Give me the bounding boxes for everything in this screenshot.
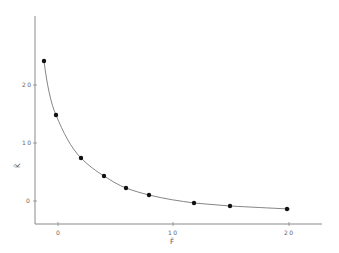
y-tick-label-10: 10 [22, 139, 33, 146]
data-point [54, 113, 58, 117]
x-tick-label-20: 20 [284, 229, 295, 236]
chart: 20 10 0 0 10 20 F̄ K̄ [0, 0, 339, 253]
x-axis-label: F̄ [170, 237, 174, 246]
data-point [228, 204, 232, 208]
data-point [124, 186, 128, 190]
data-point [79, 156, 83, 160]
data-point [42, 59, 46, 63]
x-tick-label-0: 0 [56, 229, 61, 236]
y-axis-label: K̄ [13, 163, 22, 168]
data-point [192, 201, 196, 205]
data-point [147, 193, 151, 197]
fitted-curve [44, 61, 290, 209]
data-points [42, 59, 289, 211]
y-tick-label-20: 20 [22, 81, 33, 88]
data-point [102, 174, 106, 178]
y-tick-label-0: 0 [26, 197, 31, 204]
x-tick-label-10: 10 [168, 229, 179, 236]
data-point [285, 207, 289, 211]
